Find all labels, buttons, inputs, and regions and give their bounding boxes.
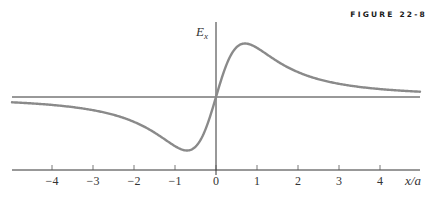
x-tick-label: 0	[213, 174, 219, 188]
x-tick-label: 4	[377, 174, 383, 188]
x-tick-label: −1	[169, 174, 182, 188]
chart: −4−3−2−101234 Ex x/a	[0, 0, 439, 201]
x-ticks: −4−3−2−101234	[46, 165, 383, 188]
x-tick-label: 1	[254, 174, 260, 188]
x-tick-label: −4	[46, 174, 59, 188]
x-tick-label: −2	[128, 174, 141, 188]
y-axis-label: Ex	[195, 24, 208, 41]
x-tick-label: −3	[87, 174, 100, 188]
x-axis-label: x/a	[404, 173, 421, 188]
x-tick-label: 2	[295, 174, 301, 188]
x-tick-label: 3	[336, 174, 342, 188]
